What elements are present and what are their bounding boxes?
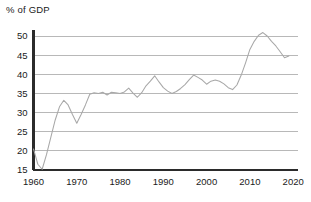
x-tick-label-2020: 2020 — [283, 176, 304, 187]
y-tick-label-20: 20 — [17, 145, 28, 156]
x-tick-label-2010: 2010 — [239, 176, 260, 187]
y-tick-label-40: 40 — [17, 69, 28, 80]
y-tick-label-15: 15 — [17, 164, 28, 175]
x-tick-label-1990: 1990 — [153, 176, 174, 187]
y-tick-label-35: 35 — [17, 88, 28, 99]
data-series-group — [34, 33, 289, 170]
line-chart-plot: 1520253035404550 19601970198019902000201… — [0, 0, 311, 202]
y-tick-label-45: 45 — [17, 50, 28, 61]
data-series-line — [34, 33, 289, 170]
x-tick-label-2000: 2000 — [196, 176, 217, 187]
y-tick-label-30: 30 — [17, 107, 28, 118]
gridlines-group — [34, 36, 298, 151]
x-tick-label-1960: 1960 — [23, 176, 44, 187]
x-tick-labels-group: 1960197019801990200020102020 — [23, 176, 304, 187]
y-tick-label-50: 50 — [17, 30, 28, 41]
y-tick-label-25: 25 — [17, 126, 28, 137]
x-tick-label-1980: 1980 — [109, 176, 130, 187]
y-tick-labels-group: 1520253035404550 — [17, 30, 28, 175]
x-tick-label-1970: 1970 — [66, 176, 87, 187]
chart-container: % of GDP 1520253035404550 19601970198019… — [0, 0, 311, 202]
axis-lines-group — [33, 30, 298, 170]
